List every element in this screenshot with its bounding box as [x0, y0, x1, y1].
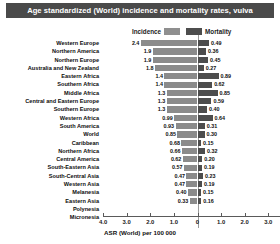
category-label: Melanesia	[72, 188, 99, 196]
bar-row: South-Central Asia0.470.23	[0, 172, 280, 180]
bar-row: Western Asia0.470.19	[0, 180, 280, 188]
mortality-bar	[198, 148, 206, 154]
x-axis-tick-label: 2.0	[235, 219, 255, 225]
mortality-value-label: 0.36	[208, 47, 219, 55]
mortality-value-label: 0.19	[204, 180, 215, 188]
category-label: Eastern Africa	[61, 72, 99, 80]
chart-legend: Incidence Mortality	[132, 27, 231, 36]
incidence-bar	[164, 82, 197, 88]
incidence-value-label: 2.4	[132, 39, 140, 47]
mortality-value-label: 0.15	[203, 188, 214, 196]
category-label: South-Central Asia	[49, 172, 99, 180]
bar-row: Central and Eastern Europe1.30.59	[0, 97, 280, 105]
incidence-bar	[177, 131, 197, 137]
category-label: Western Asia	[64, 180, 99, 188]
bar-row: Polynesia	[0, 205, 280, 213]
bar-row: Melanesia0.400.15	[0, 188, 280, 196]
mortality-value-label: 0.32	[207, 147, 218, 155]
incidence-value-label: 1.4	[155, 80, 163, 88]
incidence-value-label: 1.4	[155, 72, 163, 80]
mortality-value-label: 0.15	[203, 139, 214, 147]
incidence-value-label: 0.57	[172, 163, 183, 171]
bar-row: World0.850.30	[0, 130, 280, 138]
mortality-value-label: 0.85	[220, 89, 231, 97]
mortality-bar	[198, 57, 209, 63]
incidence-bar	[184, 165, 197, 171]
mortality-bar	[198, 82, 213, 88]
incidence-value-label: 1.3	[158, 97, 166, 105]
incidence-bar	[167, 98, 198, 104]
bar-row: Eastern Asia0.330.16	[0, 197, 280, 205]
x-axis-tick	[221, 213, 222, 216]
incidence-bar	[181, 140, 197, 146]
mortality-bar	[198, 90, 218, 96]
bar-row: Central America0.620.20	[0, 155, 280, 163]
x-axis-tick	[198, 213, 199, 216]
x-axis-tick-label: 1.0	[164, 219, 184, 225]
mortality-value-label: 0.16	[203, 197, 214, 205]
mortality-value-label: 0.62	[214, 80, 225, 88]
bar-row: South-Eastern Asia0.570.19	[0, 163, 280, 171]
bar-row: Caribbean0.680.15	[0, 139, 280, 147]
category-label: Polynesia	[73, 205, 99, 213]
incidence-value-label: 0.47	[174, 180, 185, 188]
category-label: Northern Europe	[55, 56, 99, 64]
incidence-value-label: 1.3	[158, 105, 166, 113]
category-label: Central America	[56, 155, 99, 163]
bar-row: Northern Africa0.660.32	[0, 147, 280, 155]
mortality-value-label: 0.31	[207, 122, 218, 130]
incidence-bar	[153, 48, 198, 54]
incidence-value-label: 1.8	[146, 64, 154, 72]
mortality-bar	[198, 198, 202, 204]
legend-item-mortality-label: Mortality	[205, 28, 231, 35]
incidence-value-label: 0.62	[171, 155, 182, 163]
bar-row: Australia and New Zealand1.80.27	[0, 64, 280, 72]
mortality-bar	[198, 156, 203, 162]
mortality-bar	[198, 131, 205, 137]
bar-row: Western Europe2.40.49	[0, 39, 280, 47]
incidence-bar	[167, 106, 198, 112]
x-axis-tick-label: 1.0	[211, 219, 231, 225]
mortality-value-label: 0.89	[221, 72, 232, 80]
x-axis-title: ASR (World) per 100 000	[0, 229, 280, 236]
category-label: South America	[60, 122, 99, 130]
incidence-bar	[188, 189, 197, 195]
incidence-value-label: 0.33	[178, 197, 189, 205]
mortality-value-label: 0.40	[209, 105, 220, 113]
x-axis-tick	[103, 213, 104, 216]
incidence-bar	[183, 156, 198, 162]
mortality-bar	[198, 40, 210, 46]
mortality-bar	[198, 98, 212, 104]
mortality-value-label: 0.64	[215, 114, 226, 122]
category-label: Northern Africa	[58, 147, 99, 155]
x-axis-tick	[245, 213, 246, 216]
category-label: Western Europe	[56, 39, 99, 47]
incidence-bar	[176, 123, 198, 129]
x-axis-tick	[150, 213, 151, 216]
incidence-value-label: 0.47	[174, 172, 185, 180]
bar-row: Southern Europe1.30.40	[0, 105, 280, 113]
bar-row: Northern Europe1.90.45	[0, 56, 280, 64]
mortality-value-label: 0.49	[211, 39, 222, 47]
mortality-value-label: 0.30	[207, 130, 218, 138]
bar-row: Middle Africa1.30.85	[0, 89, 280, 97]
bar-row: South America0.930.31	[0, 122, 280, 130]
mortality-value-label: 0.27	[206, 64, 217, 72]
category-label: Caribbean	[72, 139, 99, 147]
bar-row: Northern America1.90.36	[0, 47, 280, 55]
bar-row: Southern Africa1.40.62	[0, 80, 280, 88]
mortality-bar	[198, 48, 206, 54]
mortality-bar	[198, 106, 207, 112]
x-axis-tick-label: 3.0	[258, 219, 278, 225]
bar-row: Western Africa0.990.64	[0, 114, 280, 122]
incidence-value-label: 0.93	[164, 122, 175, 130]
mortality-bar	[198, 123, 205, 129]
incidence-bar	[186, 181, 197, 187]
incidence-value-label: 0.99	[162, 114, 173, 122]
incidence-bar	[155, 65, 197, 71]
x-axis-tick-label: 3.0	[117, 219, 137, 225]
legend-swatch-mortality	[186, 28, 202, 35]
incidence-value-label: 1.3	[158, 89, 166, 97]
incidence-bar	[164, 73, 197, 79]
category-label: Middle Africa	[64, 89, 99, 97]
